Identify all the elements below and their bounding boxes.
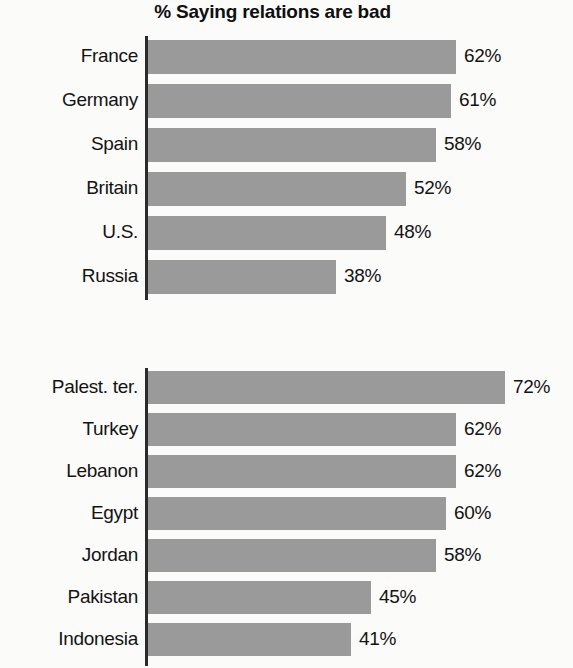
bar-category-label: Germany <box>0 89 138 111</box>
table-row: Jordan58% <box>0 536 573 578</box>
bar-category-label: France <box>0 45 138 67</box>
bar-value-label: 62% <box>464 418 501 440</box>
chart-panel-western: France62%Germany61%Spain58%Britain52%U.S… <box>0 36 573 304</box>
bar-category-label: Spain <box>0 133 138 155</box>
bar <box>148 581 371 614</box>
bar <box>148 539 436 572</box>
page-title: % Saying relations are bad <box>0 1 573 23</box>
table-row: Turkey62% <box>0 410 573 452</box>
bar-value-label: 62% <box>464 460 501 482</box>
table-row: Egypt60% <box>0 494 573 536</box>
bar-category-label: Palest. ter. <box>0 376 138 398</box>
table-row: Lebanon62% <box>0 452 573 494</box>
bar-value-label: 62% <box>464 45 501 67</box>
chart-figure: % Saying relations are bad France62%Germ… <box>0 0 573 668</box>
bar-category-label: Indonesia <box>0 628 138 650</box>
bar <box>148 40 456 74</box>
bar-category-label: U.S. <box>0 221 138 243</box>
bar-value-label: 52% <box>414 177 451 199</box>
table-row: Germany61% <box>0 80 573 124</box>
bar-category-label: Britain <box>0 177 138 199</box>
table-row: Spain58% <box>0 124 573 168</box>
bar <box>148 455 456 488</box>
bar <box>148 216 386 250</box>
bar <box>148 371 505 404</box>
chart-panel-muslim: Palest. ter.72%Turkey62%Lebanon62%Egypt6… <box>0 368 573 668</box>
table-row: U.S.48% <box>0 212 573 256</box>
bar-category-label: Egypt <box>0 502 138 524</box>
bar-value-label: 58% <box>444 544 481 566</box>
table-row: Britain52% <box>0 168 573 212</box>
bar-category-label: Pakistan <box>0 586 138 608</box>
bar-value-label: 45% <box>379 586 416 608</box>
table-row: Indonesia41% <box>0 620 573 662</box>
bar <box>148 497 446 530</box>
bar <box>148 260 336 294</box>
table-row: Palest. ter.72% <box>0 368 573 410</box>
bar-value-label: 41% <box>359 628 396 650</box>
table-row: Russia38% <box>0 256 573 300</box>
bar <box>148 128 436 162</box>
bar-value-label: 58% <box>444 133 481 155</box>
bar-category-label: Lebanon <box>0 460 138 482</box>
bar <box>148 623 351 656</box>
bar-value-label: 60% <box>454 502 491 524</box>
bar-value-label: 72% <box>513 376 550 398</box>
bar <box>148 84 451 118</box>
bar <box>148 172 406 206</box>
bar-category-label: Russia <box>0 265 138 287</box>
bar-value-label: 61% <box>459 89 496 111</box>
bar-category-label: Jordan <box>0 544 138 566</box>
bar-category-label: Turkey <box>0 418 138 440</box>
table-row: France62% <box>0 36 573 80</box>
table-row: Pakistan45% <box>0 578 573 620</box>
bar <box>148 413 456 446</box>
bar-value-label: 48% <box>394 221 431 243</box>
bar-value-label: 38% <box>344 265 381 287</box>
